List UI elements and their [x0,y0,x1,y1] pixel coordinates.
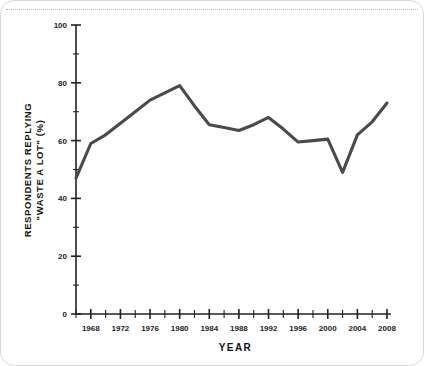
x-axis-tick-label: 1968 [82,324,100,333]
x-axis: 1968197219761980198419881992199620002004… [76,309,396,333]
y-axis: 020406080100 [54,21,81,319]
x-axis-tick-label: 2004 [348,324,366,333]
chart-plot-svg: 020406080100 196819721976198019841988199… [0,0,424,366]
y-axis-tick-label: 60 [58,137,67,146]
y-axis-tick-label: 100 [54,21,68,30]
x-axis-tick-label: 1980 [171,324,189,333]
x-axis-tick-label: 2008 [378,324,396,333]
x-axis-tick-label: 1972 [112,324,130,333]
x-axis-tick-label: 2000 [319,324,337,333]
x-axis-tick-label: 1984 [200,324,218,333]
y-axis-tick-label: 0 [63,310,68,319]
x-axis-title: YEAR [219,342,252,353]
y-axis-tick-label: 20 [58,252,67,261]
y-axis-tick-label: 40 [58,194,67,203]
x-axis-tick-labels: 1968197219761980198419881992199620002004… [82,324,397,333]
y-axis-tick-labels: 020406080100 [54,21,68,319]
line-chart: 020406080100 196819721976198019841988199… [0,0,424,366]
y-axis-title-line1: RESPONDENTS REPLYING [22,103,33,238]
y-axis-title-line2: "WASTE A LOT" (%) [34,120,45,221]
x-axis-tick-label: 1996 [289,324,307,333]
x-axis-tick-label: 1988 [230,324,248,333]
data-series-line [76,86,387,178]
x-axis-tick-label: 1976 [141,324,159,333]
x-axis-tick-label: 1992 [260,324,278,333]
y-axis-tick-label: 80 [58,79,67,88]
